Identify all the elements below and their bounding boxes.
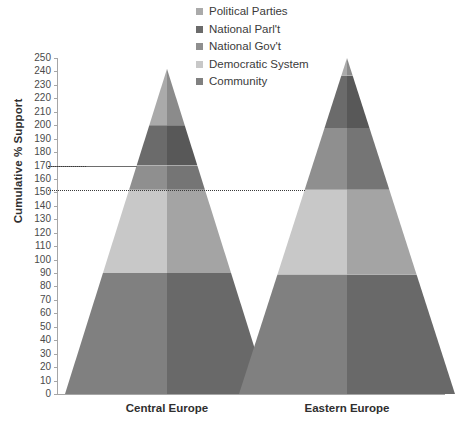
y-axis-tick-mark [54,367,58,368]
y-axis-tick-mark [54,219,58,220]
pyramid-face-right [347,58,455,75]
y-axis-tick-mark [54,152,58,153]
legend-item[interactable]: Political Parties [196,3,309,21]
y-axis-tick-label: 40 [40,335,51,345]
y-axis-tick-label: 210 [34,107,51,117]
y-axis-tick-label: 30 [40,349,51,359]
legend-swatch-icon [196,26,203,33]
y-axis-tick-mark [54,394,58,395]
y-axis-tick-mark [54,327,58,328]
category-label: Central Europe [126,402,208,414]
pyramid-face-left [239,274,347,394]
y-axis-tick-label: 230 [34,80,51,90]
pyramid-band [239,128,455,190]
y-axis-tick-mark [54,246,58,247]
pyramid-face-right [347,274,455,394]
y-axis-tick-mark [54,58,58,59]
y-axis-tick-mark [54,71,58,72]
y-axis-tick-label: 250 [34,53,51,63]
pyramid-face-left [65,166,167,190]
legend-swatch-icon [196,43,203,50]
y-axis-tick-mark [54,313,58,314]
pyramid-band [239,190,455,275]
y-axis-tick-label: 0 [45,389,51,399]
y-axis-tick-mark [54,273,58,274]
y-axis-tick-label: 160 [34,174,51,184]
y-axis-tick-mark [54,381,58,382]
legend-item-label: National Gov't [209,41,281,53]
pyramid-face-left [65,190,167,273]
y-axis-tick-label: 220 [34,93,51,103]
pyramid-face-right [347,75,455,127]
pyramid-band [239,274,455,394]
y-axis-tick-mark [54,206,58,207]
legend-item[interactable]: National Parl't [196,21,309,39]
y-axis-tick-mark [54,125,58,126]
pyramid-eastern-europe[interactable] [239,58,455,394]
legend-swatch-icon [196,8,203,15]
y-axis-tick-label: 10 [40,376,51,386]
pyramid-face-left [65,69,167,125]
pyramid-chart: Cumulative % Support Political PartiesNa… [0,0,467,437]
pyramid-face-left [239,128,347,190]
x-axis-line [57,394,445,395]
pyramid-band [239,58,455,75]
y-axis-tick-mark [54,192,58,193]
pyramid-face-left [239,58,347,75]
pyramid-face-left [239,190,347,275]
y-axis-tick-label: 180 [34,147,51,157]
legend-item-label: National Parl't [209,24,280,36]
plot-area: 0102030405060708090100110120130140150160… [57,58,445,394]
y-axis-tick-label: 240 [34,66,51,76]
legend-item-label: Political Parties [209,6,288,18]
pyramid-face-left [65,125,167,165]
y-axis-tick-label: 20 [40,362,51,372]
y-axis-tick-label: 70 [40,295,51,305]
y-axis-title: Cumulative % Support [12,81,24,241]
y-axis-tick-label: 200 [34,120,51,130]
y-axis-tick-mark [54,112,58,113]
y-axis-tick-label: 50 [40,322,51,332]
y-axis-tick-mark [54,98,58,99]
y-axis-tick-label: 190 [34,134,51,144]
pyramid-band [239,75,455,127]
y-axis-tick-label: 80 [40,281,51,291]
y-axis-tick-label: 110 [35,241,51,251]
y-axis-tick-mark [54,260,58,261]
y-axis-tick-mark [54,300,58,301]
pyramid-face-left [65,273,167,394]
y-axis-tick-label: 60 [40,308,51,318]
y-axis-tick-mark [54,139,58,140]
y-axis-tick-label: 100 [34,255,51,265]
leader-line-152 [48,190,305,191]
y-axis-tick-mark [54,179,58,180]
y-axis-tick-mark [54,286,58,287]
y-axis-tick-label: 90 [40,268,51,278]
legend-item[interactable]: National Gov't [196,38,309,56]
y-axis-tick-label: 130 [34,214,51,224]
y-axis-tick-label: 140 [34,201,51,211]
y-axis-tick-mark [54,340,58,341]
y-axis-line [57,58,58,394]
y-axis-tick-mark [54,354,58,355]
y-axis-tick-mark [54,233,58,234]
y-axis-tick-mark [54,85,58,86]
pyramid-face-right [347,190,455,275]
pyramid-face-left [239,75,347,127]
y-axis-tick-label: 120 [34,228,51,238]
pyramid-face-right [347,128,455,190]
category-label: Eastern Europe [305,402,390,414]
leader-line-170-stub [48,166,86,167]
